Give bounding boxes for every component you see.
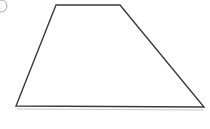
figure-canvas: Trapezoid [0,0,210,129]
geometry-figure-svg [0,0,210,129]
